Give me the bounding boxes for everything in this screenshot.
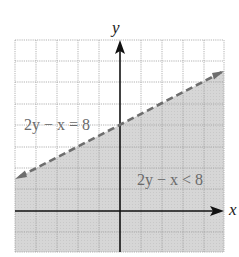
y-axis-label: y xyxy=(110,18,120,37)
x-axis-label: x xyxy=(228,200,237,219)
inequality-label: 2y − x < 8 xyxy=(137,171,203,189)
inequality-graph: y x 2y − x = 8 2y − x < 8 xyxy=(0,0,239,257)
boundary-equation-label: 2y − x = 8 xyxy=(24,116,90,134)
